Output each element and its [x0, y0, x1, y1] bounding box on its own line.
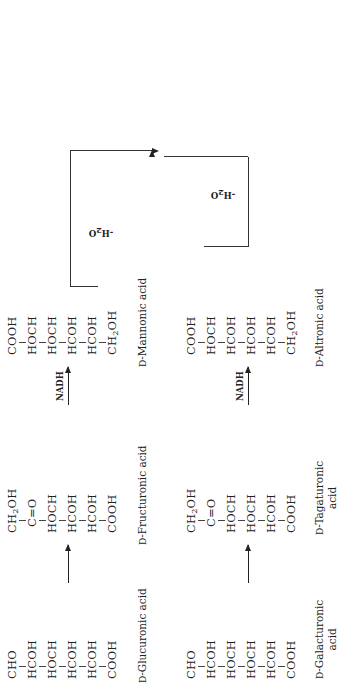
atom: HOCH [245, 494, 258, 533]
atom: COOH [285, 495, 298, 533]
reaction-arrow [68, 545, 69, 583]
atom: HOCH [46, 640, 59, 679]
atom: HCOH [26, 640, 39, 679]
galacturonic-acid-label: D-Galacturonic acid [313, 600, 338, 679]
atom: HOCH [245, 640, 258, 679]
dehydration-connector-top [70, 286, 98, 287]
atom: CH2OH [185, 489, 198, 533]
atom: COOH [285, 641, 298, 679]
glucuronic-acid-structure: CHO HCOH HOCH HCOH HCOH COOH [6, 640, 119, 679]
atom: C=O [26, 499, 39, 527]
atom: CH2OH [106, 311, 119, 355]
atom: HOCH [26, 316, 39, 355]
dehydration-connector-top [70, 150, 152, 151]
atom: HCOH [86, 494, 99, 533]
atom: COOH [106, 495, 119, 533]
dehydration-connector-top [70, 151, 71, 287]
atom: HOCH [225, 640, 238, 679]
atom: HCOH [205, 640, 218, 679]
atom: CH2OH [285, 311, 298, 355]
glucuronic-acid-label: D-Glucuronic acid [136, 588, 149, 683]
arrowhead-top [152, 148, 159, 154]
nadh-reaction-arrow [68, 367, 69, 405]
atom: HOCH [46, 494, 59, 533]
atom: HCOH [265, 640, 278, 679]
reaction-arrow [248, 545, 249, 583]
atom: COOH [185, 317, 198, 355]
galacturonic-acid-structure: CHO HCOH HOCH HOCH HCOH COOH [185, 640, 298, 679]
atom: CH2OH [6, 489, 19, 533]
atom: HOCH [225, 494, 238, 533]
fructuronic-acid-structure: CH2OH C=O HOCH HCOH HCOH COOH [6, 489, 119, 533]
atom: HCOH [66, 494, 79, 533]
dehydration-connector-bottom [248, 157, 249, 247]
atom: HCOH [245, 316, 258, 355]
atom: HCOH [66, 316, 79, 355]
fructuronic-acid-label: D-Fructuronic acid [136, 445, 149, 545]
atom: HCOH [86, 640, 99, 679]
tagaturonic-acid-structure: CH2OH C=O HOCH HOCH HCOH COOH [185, 489, 298, 533]
atom: COOH [6, 317, 19, 355]
atom: HCOH [66, 640, 79, 679]
mannonic-acid-structure: COOH HOCH HOCH HCOH HCOH CH2OH [6, 311, 119, 355]
atom: HOCH [205, 316, 218, 355]
dehydration-connector-bottom [164, 156, 248, 157]
atom: C=O [205, 499, 218, 527]
dehydration-connector-bottom [204, 246, 248, 247]
nadh-label: NADH [55, 371, 65, 401]
pathway-diagram: CHO HCOH HOCH HCOH HCOH COOH D-Glucuroni… [0, 0, 344, 685]
atom: HOCH [46, 316, 59, 355]
atom: COOH [106, 641, 119, 679]
altronic-acid-structure: COOH HOCH HCOH HCOH HCOH CH2OH [185, 311, 298, 355]
nadh-label: NADH [235, 371, 245, 401]
atom: HCOH [225, 316, 238, 355]
tagaturonic-acid-label: D-Tagaturonic acid [313, 461, 338, 535]
atom: HCOH [86, 316, 99, 355]
atom: HCOH [265, 316, 278, 355]
mannonic-acid-label: D-Mannonic acid [136, 278, 149, 367]
altronic-acid-label: D-Altronic acid [313, 288, 326, 367]
nadh-reaction-arrow [248, 367, 249, 405]
h2o-label-bottom: -H2O [211, 190, 236, 200]
atom: HCOH [265, 494, 278, 533]
atom: CHO [185, 650, 198, 679]
h2o-label-top: -H2O [89, 228, 114, 238]
atom: CHO [6, 650, 19, 679]
